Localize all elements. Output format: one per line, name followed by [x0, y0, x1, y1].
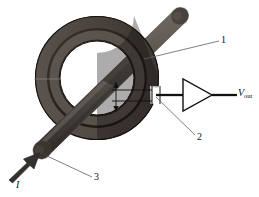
diagram-svg: [0, 0, 259, 197]
figure-canvas: 1 2 3 I Vout: [0, 0, 259, 197]
label-output-symbol: Vout: [238, 88, 252, 98]
label-gap-callout: 2: [197, 132, 202, 142]
label-core-callout: 1: [221, 35, 226, 45]
output-sub: out: [244, 92, 252, 99]
leader-line-conductor: [47, 156, 92, 177]
amplifier-symbol: [183, 79, 212, 111]
label-current-symbol: I: [16, 180, 19, 190]
output-circuit: [156, 79, 237, 111]
current-arrow: [9, 153, 40, 184]
label-conductor-callout: 3: [94, 172, 99, 182]
magnetic-core: [35, 16, 159, 140]
